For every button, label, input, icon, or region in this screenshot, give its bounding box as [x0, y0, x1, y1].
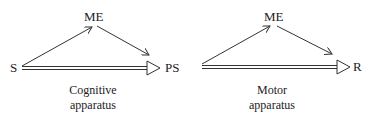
double-arrow-s-to-ps — [22, 61, 160, 75]
double-arrow-ps-to-r — [202, 60, 350, 74]
caption-left-line1: Cognitive — [48, 83, 138, 98]
arrow-me-to-r — [277, 26, 332, 54]
caption-right-line1: Motor — [227, 83, 317, 98]
caption-motor-apparatus: Motor apparatus — [227, 83, 317, 113]
arrow-ps-to-me — [202, 26, 270, 64]
caption-right-line2: apparatus — [227, 98, 317, 113]
node-me-left: ME — [84, 10, 104, 23]
caption-left-line2: apparatus — [48, 98, 138, 113]
node-s: S — [10, 61, 17, 74]
arrow-s-to-me — [22, 27, 92, 66]
caption-cognitive-apparatus: Cognitive apparatus — [48, 83, 138, 113]
node-r: R — [353, 60, 362, 73]
arrow-me-to-ps — [97, 26, 149, 55]
node-me-right: ME — [264, 10, 284, 23]
node-ps: PS — [165, 61, 179, 74]
